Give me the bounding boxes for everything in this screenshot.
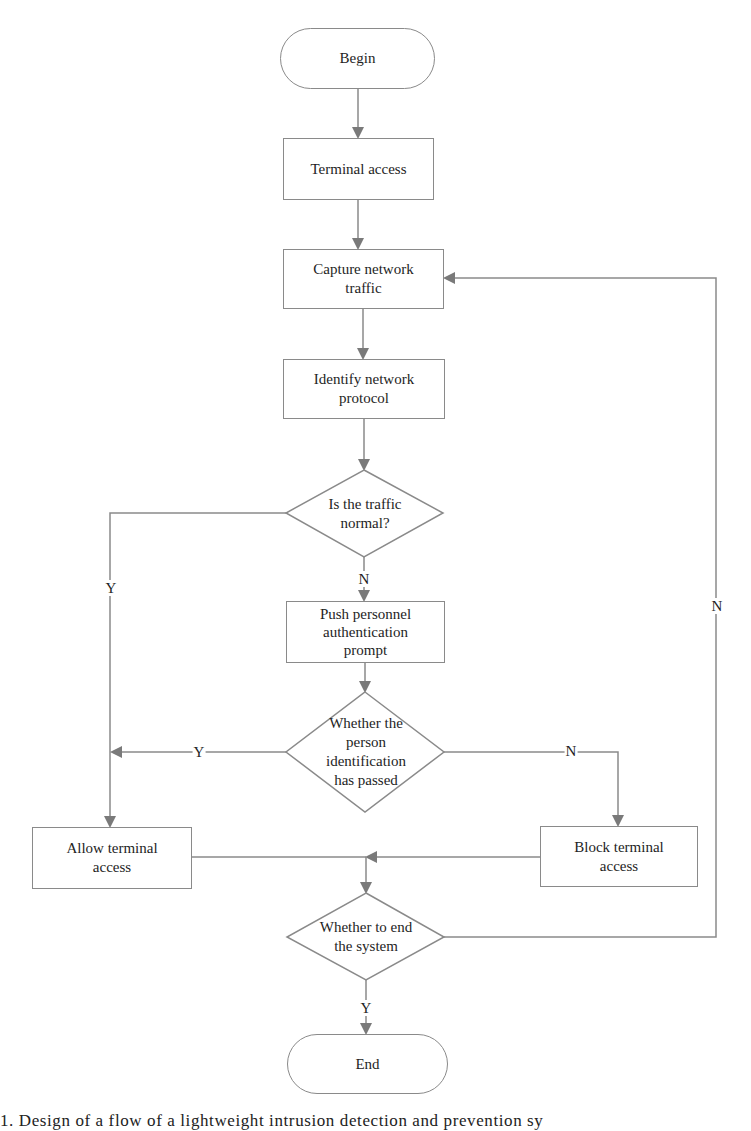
allow-access-label: Allow terminal access bbox=[59, 839, 165, 877]
edge-label-passed-no: N bbox=[565, 743, 578, 759]
end-system-label-wrap: Whether to end the system bbox=[310, 915, 422, 959]
figure-caption: 1. Design of a flow of a lightweight int… bbox=[0, 1111, 751, 1131]
block-access-box: Block terminal access bbox=[540, 826, 698, 887]
begin-terminal: Begin bbox=[280, 28, 435, 89]
allow-access-box: Allow terminal access bbox=[32, 827, 192, 889]
terminal-access-label: Terminal access bbox=[311, 160, 407, 179]
edge-label-normal-no: N bbox=[358, 571, 371, 587]
traffic-normal-label: Is the traffic normal? bbox=[318, 495, 412, 533]
capture-traffic-label: Capture network traffic bbox=[306, 260, 421, 298]
terminal-access-box: Terminal access bbox=[283, 138, 434, 200]
end-system-label: Whether to end the system bbox=[310, 918, 422, 956]
identify-protocol-box: Identify network protocol bbox=[283, 359, 445, 419]
id-passed-label: Whether the person identification has pa… bbox=[318, 714, 414, 790]
end-terminal: End bbox=[287, 1034, 448, 1094]
identify-protocol-label: Identify network protocol bbox=[304, 370, 424, 408]
block-access-label: Block terminal access bbox=[569, 838, 669, 876]
push-auth-box: Push personnel authentication prompt bbox=[286, 601, 445, 663]
begin-label: Begin bbox=[340, 49, 376, 68]
id-passed-label-wrap: Whether the person identification has pa… bbox=[318, 712, 414, 792]
edge-label-passed-yes: Y bbox=[193, 744, 206, 760]
edge-label-end-yes: Y bbox=[360, 1000, 373, 1016]
traffic-normal-label-wrap: Is the traffic normal? bbox=[318, 492, 412, 536]
edge-label-end-no: N bbox=[711, 598, 724, 614]
push-auth-label: Push personnel authentication prompt bbox=[313, 605, 418, 659]
edge-label-normal-yes: Y bbox=[105, 580, 118, 596]
capture-traffic-box: Capture network traffic bbox=[283, 249, 444, 309]
end-label: End bbox=[355, 1055, 379, 1074]
